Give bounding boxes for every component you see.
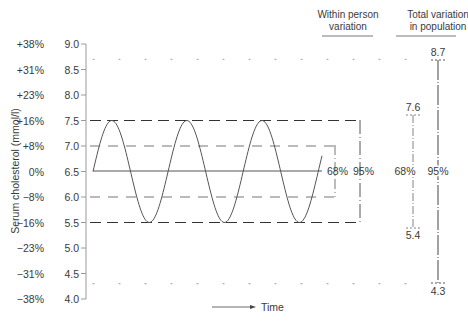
population-header-line1: Total variation [407, 9, 468, 20]
y-percent-label: −8% [23, 191, 44, 203]
within-95-label: 95% [353, 165, 374, 177]
y-percent-label: −23% [17, 242, 44, 254]
y-percent-label: −38% [17, 293, 44, 305]
y-percent-label: 0% [29, 166, 44, 178]
population-68-low-value: 5.4 [406, 229, 421, 241]
y-tick-label: 6.0 [64, 191, 79, 203]
y-tick-label: 6.5 [64, 166, 79, 178]
within-person-header-line1: Within person [317, 9, 378, 20]
y-tick-label: 4.5 [64, 268, 79, 280]
time-arrow [212, 305, 256, 309]
cholesterol-variation-chart: 9.0+38%8.5+31%8.0+23%7.5+16%7.0+8%6.50%6… [0, 0, 468, 321]
y-percent-label: +8% [23, 140, 44, 152]
y-tick-label: 8.0 [64, 89, 79, 101]
y-axis: 9.0+38%8.5+31%8.0+23%7.5+16%7.0+8%6.50%6… [17, 38, 86, 305]
y-tick-label: 4.0 [64, 293, 79, 305]
within-person-header-line2: variation [329, 21, 367, 32]
population-95-high-value: 8.7 [431, 46, 446, 58]
population-68-high-value: 7.6 [406, 101, 421, 113]
y-percent-label: +23% [17, 89, 44, 101]
y-percent-label: +31% [17, 64, 44, 76]
within-68-label: 68% [327, 165, 348, 177]
population-68-label: 68% [394, 165, 415, 177]
time-label: Time [261, 301, 284, 313]
population-header-line2: in population [410, 21, 467, 32]
population-95-low-value: 4.3 [431, 285, 446, 297]
y-tick-label: 9.0 [64, 38, 79, 50]
y-percent-label: +38% [17, 38, 44, 50]
y-percent-label: −31% [17, 268, 44, 280]
population-95-label: 95% [427, 165, 448, 177]
y-tick-label: 7.5 [64, 115, 79, 127]
y-axis-label: Serum cholesterol (mmol/l) [9, 108, 21, 233]
y-tick-label: 8.5 [64, 64, 79, 76]
y-tick-label: 5.5 [64, 217, 79, 229]
y-tick-label: 5.0 [64, 242, 79, 254]
y-tick-label: 7.0 [64, 140, 79, 152]
